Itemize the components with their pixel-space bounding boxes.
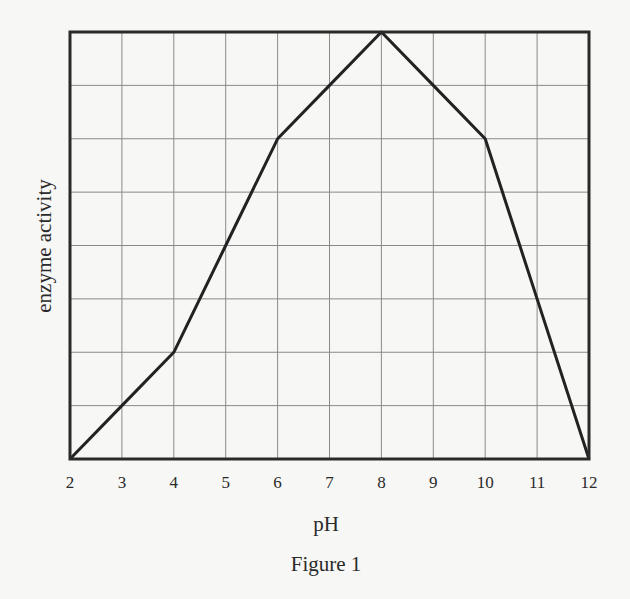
- x-tick-label: 7: [325, 473, 334, 492]
- chart: 23456789101112 enzyme activity pH Figure…: [0, 0, 630, 599]
- x-tick-label: 11: [529, 473, 545, 492]
- x-tick-label: 2: [66, 473, 75, 492]
- x-tick-labels: 23456789101112: [66, 473, 598, 492]
- x-tick-label: 8: [377, 473, 386, 492]
- x-tick-label: 6: [273, 473, 282, 492]
- grid-lines: [70, 32, 589, 459]
- x-tick-label: 12: [581, 473, 598, 492]
- x-tick-label: 3: [118, 473, 127, 492]
- x-tick-label: 4: [170, 473, 179, 492]
- y-axis-title: enzyme activity: [32, 179, 56, 313]
- x-axis-title: pH: [313, 512, 339, 536]
- figure-caption: Figure 1: [291, 552, 362, 576]
- x-tick-label: 5: [221, 473, 230, 492]
- x-tick-label: 9: [429, 473, 438, 492]
- x-tick-label: 10: [477, 473, 494, 492]
